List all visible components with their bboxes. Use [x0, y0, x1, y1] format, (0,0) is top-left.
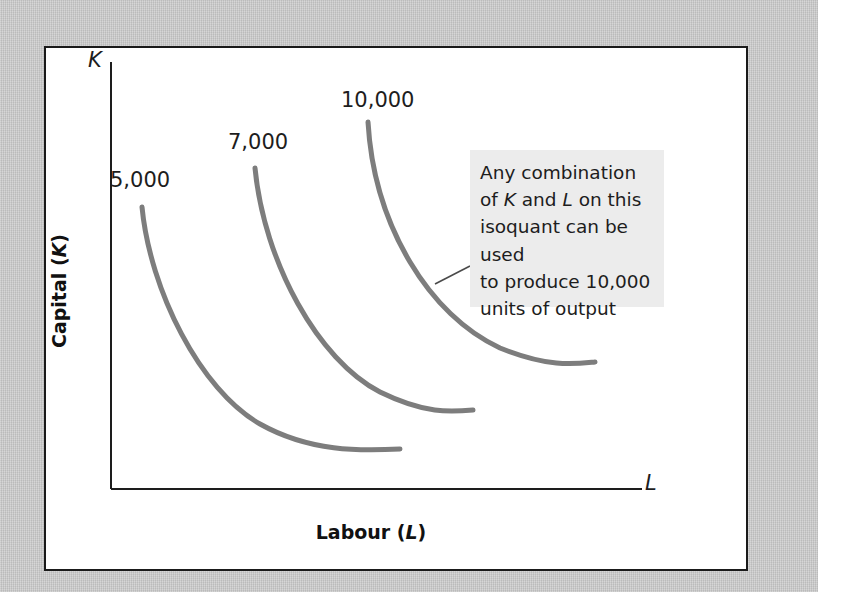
y-axis-title: Capital (K) — [48, 201, 70, 381]
annotation-line: units of output — [480, 295, 654, 322]
annotation-callout: Any combinationof K and L on thisisoquan… — [470, 150, 664, 307]
annotation-line: of K and L on this — [480, 186, 654, 213]
isoquant-label-10000: 10,000 — [341, 88, 414, 112]
x-axis-title-symbol: L — [406, 521, 418, 543]
y-axis-title-symbol: K — [48, 243, 70, 258]
annotation-line: to produce 10,000 — [480, 268, 654, 295]
y-axis-symbol: K — [88, 48, 102, 72]
x-axis-symbol: L — [645, 471, 657, 495]
x-axis-title-text: Labour — [316, 521, 390, 543]
isoquant-label-5000: 5,000 — [110, 168, 170, 192]
callout-leader-line — [435, 266, 470, 284]
annotation-line: Any combination — [480, 159, 654, 186]
annotation-symbol: L — [562, 189, 572, 210]
figure-page: K L 5,000 7,000 10,000 Capital (K) Labou… — [0, 0, 848, 609]
annotation-symbol: K — [504, 189, 516, 210]
isoquant-curve-7000 — [255, 168, 473, 411]
y-axis-title-text: Capital — [48, 273, 70, 348]
isoquant-label-7000: 7,000 — [228, 130, 288, 154]
x-axis-title: Labour (L) — [111, 521, 631, 543]
isoquant-plot — [0, 0, 848, 609]
annotation-text: Any combinationof K and L on thisisoquan… — [480, 159, 654, 322]
annotation-line: isoquant can be used — [480, 213, 654, 267]
